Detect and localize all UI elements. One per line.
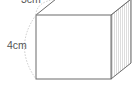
- depth-label: 3cm: [21, 0, 41, 5]
- prism-front-face: [36, 15, 111, 79]
- height-label: 4cm: [7, 40, 27, 51]
- prism-diagram: 3cm 4cm: [0, 0, 135, 97]
